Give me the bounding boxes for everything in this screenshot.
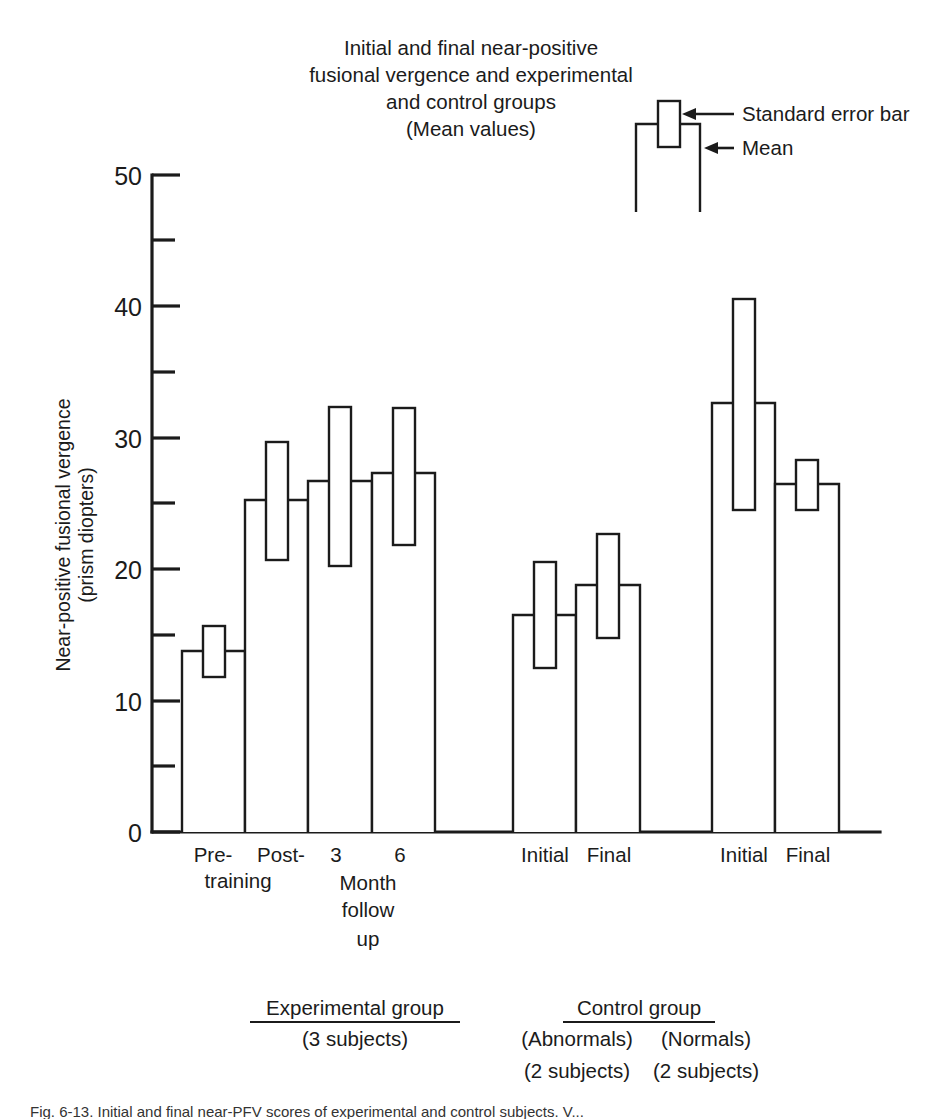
x-label-abnormal-initial: Initial — [521, 843, 569, 866]
group-caption-abnormals-subjects: (2 subjects) — [524, 1059, 630, 1082]
chart-title-line-1: Initial and final near-positive — [344, 36, 598, 59]
legend-sample-error-box — [658, 101, 680, 147]
bar-group-experimental — [182, 407, 435, 832]
figure-caption-text: Fig. 6-13. Initial and final near-PFV sc… — [30, 1103, 584, 1119]
error-box-pre-training — [203, 626, 225, 677]
x-label-abnormal-final: Final — [587, 843, 631, 866]
error-box-month-6 — [393, 408, 415, 545]
x-label-pre-training-line-1: Pre- — [194, 843, 233, 866]
bar-group-control-abnormals — [513, 534, 640, 832]
bar-group-control-normals — [712, 299, 839, 832]
y-axis-title-line-1: Near-positive fusional vergence — [52, 398, 74, 671]
group-caption-normals-label: (Normals) — [661, 1027, 751, 1050]
x-label-pre-training-line-2: training — [204, 869, 271, 892]
y-axis: 50 40 30 20 10 0 — [114, 162, 180, 847]
x-label-normal-final: Final — [786, 843, 830, 866]
group-caption-experimental: Experimental group (3 subjects) — [250, 996, 460, 1050]
group-caption-experimental-heading: Experimental group — [266, 996, 444, 1019]
x-label-normal-initial: Initial — [720, 843, 768, 866]
legend: Standard error bar Mean — [636, 101, 910, 212]
y-tick-label-40: 40 — [114, 293, 142, 321]
x-label-month-follow-up-line-1: Month — [340, 871, 397, 894]
x-label-month-3: 3 — [330, 843, 341, 866]
bar-normal-final[interactable] — [775, 484, 839, 832]
legend-label-standard-error-bar: Standard error bar — [742, 102, 910, 125]
x-label-month-follow-up-line-3: up — [357, 927, 380, 950]
legend-arrow-standard-error — [682, 108, 734, 120]
y-tick-label-50: 50 — [114, 162, 142, 190]
error-box-post-training — [266, 442, 288, 560]
x-label-month-6: 6 — [394, 843, 405, 866]
chart-title-line-4: (Mean values) — [406, 117, 536, 140]
y-tick-label-30: 30 — [114, 425, 142, 453]
group-caption-experimental-subjects: (3 subjects) — [302, 1027, 408, 1050]
legend-arrow-mean — [704, 142, 734, 154]
x-label-post-training-line-1: Post- — [257, 843, 305, 866]
y-tick-label-0: 0 — [128, 819, 142, 847]
error-box-abnormal-final — [597, 534, 619, 638]
legend-label-mean: Mean — [742, 136, 793, 159]
x-label-month-follow-up-line-2: follow — [342, 898, 395, 921]
group-caption-normals-subjects: (2 subjects) — [653, 1059, 759, 1082]
group-caption-control-heading: Control group — [577, 996, 701, 1019]
y-axis-title: Near-positive fusional vergence (prism d… — [52, 398, 97, 671]
figure-caption: Fig. 6-13. Initial and final near-PFV sc… — [30, 1103, 584, 1119]
error-box-normal-initial — [733, 299, 755, 510]
error-box-normal-final — [796, 460, 818, 510]
y-tick-label-10: 10 — [114, 688, 142, 716]
error-box-month-3 — [329, 407, 351, 566]
x-tick-labels: Pre- training Post- 3 6 Month follow up … — [194, 843, 831, 950]
group-caption-abnormals-label: (Abnormals) — [521, 1027, 633, 1050]
chart-canvas: Initial and final near-positive fusional… — [0, 0, 942, 1119]
y-axis-title-line-2: (prism diopters) — [75, 467, 97, 602]
y-tick-label-20: 20 — [114, 556, 142, 584]
chart-title-line-3: and control groups — [386, 90, 556, 113]
figure-root: Initial and final near-positive fusional… — [0, 0, 942, 1119]
chart-title: Initial and final near-positive fusional… — [309, 36, 633, 140]
error-box-abnormal-initial — [534, 562, 556, 668]
chart-title-line-2: fusional vergence and experimental — [309, 63, 633, 86]
group-caption-control: Control group (Abnormals) (2 subjects) (… — [521, 996, 759, 1082]
